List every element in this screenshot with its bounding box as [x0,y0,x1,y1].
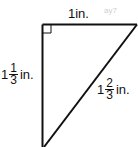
watermark-text: ay7 [104,6,117,15]
right-angle-marker [43,25,52,34]
top-leg-label-text: 1in. [68,6,89,21]
left-leg-fraction: 1 3 [9,63,18,86]
left-leg-label: 1 1 3 in. [1,63,34,86]
left-leg-unit: in. [20,68,34,81]
hypotenuse-whole: 1 [97,83,104,96]
left-leg-denominator: 3 [10,75,17,86]
hypotenuse-denominator: 3 [106,90,113,101]
hypotenuse-unit: in. [116,83,130,96]
hypotenuse-label: 1 2 3 in. [97,78,130,101]
left-leg-whole: 1 [1,68,8,81]
hypotenuse-fraction: 2 3 [105,78,114,101]
top-leg-label: 1in. [68,7,89,20]
